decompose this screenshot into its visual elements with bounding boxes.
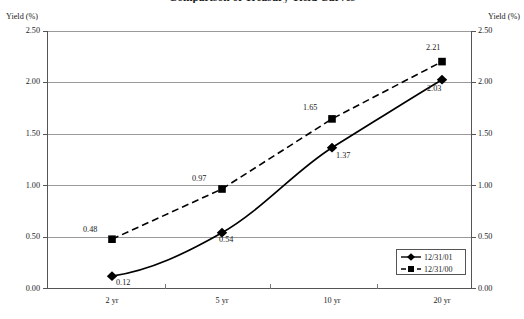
legend-key-solid-diamond-icon (400, 252, 422, 262)
legend-item-12-31-00: 12/31/00 (397, 263, 465, 275)
x-tick-marks (165, 284, 377, 289)
data-label-12-31-00-2yr: 0.48 (83, 226, 97, 234)
data-label-12-31-01-20yr: 2.03 (427, 85, 441, 93)
chart-container: Comparison of Treasury Yield Curves Yiel… (0, 0, 524, 319)
legend-key-dashed-square-icon (400, 264, 422, 274)
legend-item-12-31-01: 12/31/01 (397, 251, 465, 263)
data-label-12-31-01-5yr: 0.54 (219, 236, 233, 244)
series-12-31-01-line (112, 80, 442, 277)
data-label-12-31-00-20yr: 2.21 (426, 44, 440, 52)
series-12-31-00 (108, 58, 446, 243)
legend-label-12-31-00: 12/31/00 (424, 265, 452, 274)
data-label-12-31-01-10yr: 1.37 (336, 152, 350, 160)
data-label-12-31-00-10yr: 1.65 (303, 104, 317, 112)
series-12-31-00-marker-5yr (218, 185, 226, 193)
data-label-12-31-01-2yr: 0.12 (116, 279, 130, 287)
series-12-31-00-marker-2yr (108, 235, 116, 243)
legend-label-12-31-01: 12/31/01 (424, 253, 452, 262)
chart-legend: 12/31/01 12/31/00 (396, 249, 466, 275)
data-label-12-31-00-5yr: 0.97 (192, 175, 206, 183)
series-12-31-00-line (112, 62, 442, 240)
series-12-31-00-marker-10yr (328, 115, 336, 123)
series-12-31-00-marker-20yr (438, 58, 446, 66)
